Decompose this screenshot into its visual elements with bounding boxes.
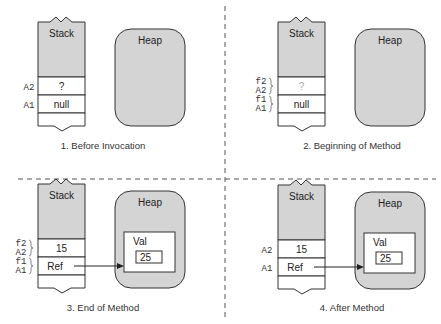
panel-end-of-method: Stack 15 Ref f2 A2 f1 A1 Heap Val 25 3. … bbox=[16, 179, 185, 313]
panel-caption: 1. Before Invocation bbox=[61, 140, 146, 151]
panel-caption: 2. Beginning of Method bbox=[303, 140, 401, 151]
heap: Heap bbox=[355, 29, 425, 126]
panel-caption: 4. After Method bbox=[320, 302, 384, 313]
stack: Stack ? null A2 A1 bbox=[24, 17, 85, 131]
heap-object-field-value: 25 bbox=[140, 252, 152, 263]
stack-cell-f1-value: null bbox=[294, 99, 310, 110]
heap-object-title: Val bbox=[373, 237, 387, 248]
label-a1: A1 bbox=[24, 101, 35, 111]
stack-cell-a1-value: null bbox=[54, 99, 70, 110]
brace-icon bbox=[29, 258, 33, 274]
heap-object-field-value: 25 bbox=[380, 253, 392, 264]
stack-cell-a2-value: 15 bbox=[296, 244, 308, 255]
panel-before-invocation: Stack ? null A2 A1 Heap 1. Before Invoca… bbox=[24, 17, 185, 151]
panel-caption: 3. End of Method bbox=[67, 302, 139, 313]
stack-cell-f2-value: ? bbox=[299, 81, 305, 92]
stack-cell-f2-value: 15 bbox=[56, 243, 68, 254]
heap: Heap Val 25 bbox=[355, 192, 425, 289]
stack-cell-a2-value: ? bbox=[59, 81, 65, 92]
stack: Stack 15 Ref f2 A2 f1 A1 bbox=[16, 179, 85, 293]
label-a1: A1 bbox=[262, 264, 273, 274]
stack: Stack 15 Ref A2 A1 bbox=[262, 180, 325, 294]
stack-title: Stack bbox=[289, 28, 315, 39]
heap-title: Heap bbox=[378, 198, 402, 209]
heap: Heap Val 25 bbox=[115, 191, 185, 288]
heap-title: Heap bbox=[138, 197, 162, 208]
diagram-canvas: Stack ? null A2 A1 Heap 1. Before Invoca… bbox=[0, 0, 441, 324]
brace-icon bbox=[269, 78, 273, 94]
brace-icon bbox=[269, 96, 273, 112]
heap-title: Heap bbox=[138, 35, 162, 46]
heap-title: Heap bbox=[378, 35, 402, 46]
stack-title: Stack bbox=[289, 191, 315, 202]
stack: Stack ? null f2 A2 f1 A1 bbox=[256, 17, 325, 131]
brace-icon bbox=[29, 240, 33, 256]
label-a1: A1 bbox=[16, 266, 27, 276]
label-a2: A2 bbox=[262, 246, 273, 256]
stack-title: Stack bbox=[49, 28, 75, 39]
stack-title: Stack bbox=[49, 190, 75, 201]
label-a2: A2 bbox=[24, 83, 35, 93]
panel-after-method: Stack 15 Ref A2 A1 Heap Val 25 4. After … bbox=[262, 180, 425, 313]
stack-cell-a1-value: Ref bbox=[287, 262, 303, 273]
panel-beginning-of-method: Stack ? null f2 A2 f1 A1 Heap 2. Beginni… bbox=[256, 17, 425, 151]
heap: Heap bbox=[115, 29, 185, 126]
heap-object-title: Val bbox=[133, 236, 147, 247]
label-a1: A1 bbox=[256, 104, 267, 114]
stack-cell-f1-value: Ref bbox=[47, 261, 63, 272]
